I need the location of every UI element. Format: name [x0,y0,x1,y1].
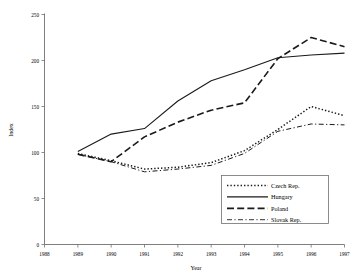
legend: Czech Rep.HungaryPolandSlovak Rep. [222,176,329,224]
legend-label: Hungary [271,193,294,200]
series-line-slovak-rep [78,124,345,172]
y-tick-label: 0 [36,242,39,248]
x-tick-label: 1988 [39,251,50,257]
y-tick-label: 150 [31,104,39,110]
series-line-poland [78,38,345,162]
y-tick-label: 50 [34,196,40,202]
x-axis-title: Year [190,265,201,271]
legend-label: Czech Rep. [271,182,300,189]
y-tick-label: 250 [31,12,39,18]
x-tick-label: 1993 [206,251,217,257]
y-axis-title: Index [8,123,14,137]
legend-label: Poland [271,205,289,212]
series-group [78,38,345,172]
x-tick-label: 1990 [106,251,117,257]
x-tick-label: 1989 [73,251,84,257]
x-tick-label: 1991 [139,251,150,257]
x-tick-label: 1997 [339,251,350,257]
x-tick-labels: 1988198919901991199219931994199519961997 [39,251,350,257]
x-tick-label: 1996 [306,251,317,257]
x-tick-label: 1995 [273,251,284,257]
legend-label: Slovak Rep. [271,216,302,223]
series-line-czech-rep [78,107,345,170]
x-tick-label: 1992 [173,251,184,257]
y-tick-label: 200 [31,58,39,64]
x-tick-label: 1994 [239,251,250,257]
chart-canvas: 0 50 100 150 200 250 1988198919901991199… [0,0,357,280]
series-line-hungary [78,53,345,151]
y-tick-labels: 0 50 100 150 200 250 [31,12,39,248]
line-chart: 0 50 100 150 200 250 1988198919901991199… [0,0,357,280]
y-tick-label: 100 [31,150,39,156]
